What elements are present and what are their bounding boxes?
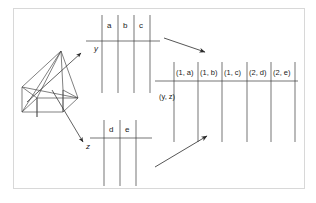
bottom-table-header-e: e xyxy=(125,126,129,134)
result-header-1-c: (1, c) xyxy=(224,69,241,77)
bottom-attribute-table-lines xyxy=(90,120,152,186)
wireframe-prism-icon xyxy=(22,51,78,117)
bottom-table-header-d: d xyxy=(109,126,113,134)
y-axis-arrow xyxy=(27,53,81,102)
result-header-1-a: (1, a) xyxy=(176,69,194,77)
top-table-header-a: a xyxy=(107,22,111,30)
result-header-2-d: (2, d) xyxy=(249,69,267,77)
top-table-header-b: b xyxy=(123,22,127,30)
top-to-result-arrow xyxy=(164,38,205,52)
axis-label-y: y xyxy=(94,45,98,53)
result-row-label-yz: (y, z) xyxy=(159,93,175,101)
bottom-to-result-arrow xyxy=(155,136,207,167)
diagram-canvas: y z a b c d e (1, a) (1, b) (1, c) (2, d… xyxy=(0,0,316,203)
axis-label-z: z xyxy=(86,143,90,151)
diagram-vector-layer xyxy=(0,0,316,203)
top-table-header-c: c xyxy=(139,22,143,30)
result-header-1-b: (1, b) xyxy=(200,69,218,77)
result-header-2-e: (2, e) xyxy=(273,69,291,77)
